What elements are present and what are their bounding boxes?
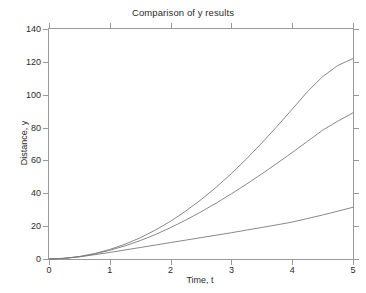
y-axis-tick-right — [353, 193, 359, 194]
y-axis-tick — [43, 193, 49, 194]
figure: Comparison of y results 0204060801001201… — [0, 0, 366, 293]
data-series-curve-2 — [49, 113, 353, 259]
x-axis-tick-top — [231, 23, 232, 29]
y-axis-tick-label: 100 — [26, 90, 41, 100]
y-axis-tick-right — [353, 128, 359, 129]
y-axis-tick-label: 60 — [31, 155, 41, 165]
x-axis-tick-top — [292, 23, 293, 29]
y-axis-tick-label: 140 — [26, 24, 41, 34]
chart-title: Comparison of y results — [0, 7, 366, 18]
x-axis-tick-label: 2 — [168, 265, 173, 275]
x-axis-tick-label: 1 — [107, 265, 112, 275]
y-axis-tick-label: 20 — [31, 221, 41, 231]
x-axis-tick-top — [171, 23, 172, 29]
x-axis-tick-label: 4 — [290, 265, 295, 275]
y-axis-tick-right — [353, 95, 359, 96]
y-axis-title: Distance, y — [19, 121, 29, 166]
plot-area: 020406080100120140012345 — [48, 28, 354, 260]
y-axis-tick — [43, 226, 49, 227]
y-axis-tick-right — [353, 226, 359, 227]
x-axis-tick-label: 3 — [229, 265, 234, 275]
data-series-curve-1 — [49, 59, 353, 259]
y-axis-tick — [43, 128, 49, 129]
x-axis-tick-top — [110, 23, 111, 29]
y-axis-tick — [43, 29, 49, 30]
y-axis-tick — [43, 95, 49, 96]
y-axis-tick-right — [353, 62, 359, 63]
y-axis-tick — [43, 62, 49, 63]
x-axis-tick-top — [49, 23, 50, 29]
chart-screenshot: Comparison of y results 0204060801001201… — [0, 0, 366, 293]
x-axis-tick-label: 5 — [350, 265, 355, 275]
plot-lines — [49, 29, 353, 259]
x-axis-tick-label: 0 — [46, 265, 51, 275]
y-axis-tick-right — [353, 29, 359, 30]
x-axis-title: Time, t — [48, 275, 352, 285]
y-axis-tick-label: 120 — [26, 57, 41, 67]
y-axis-tick-label: 80 — [31, 123, 41, 133]
y-axis-tick — [43, 160, 49, 161]
y-axis-tick-right — [353, 160, 359, 161]
y-axis-tick-label: 0 — [36, 254, 41, 264]
data-series-curve-3 — [49, 207, 353, 259]
x-axis-tick-top — [353, 23, 354, 29]
y-axis-tick-label: 40 — [31, 188, 41, 198]
